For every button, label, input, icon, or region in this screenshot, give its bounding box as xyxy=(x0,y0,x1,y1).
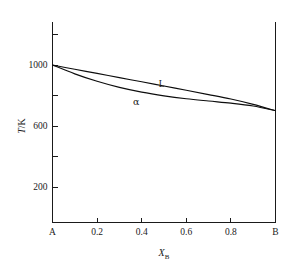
x-tick-label-A: A xyxy=(49,227,56,237)
x-axis-title: XB xyxy=(158,247,170,261)
y-tick-label-1000: 1000 xyxy=(29,60,48,70)
phase-diagram-figure: 2006001000 A0.20.40.60.8B Lα T/K XB xyxy=(0,0,302,266)
y-axis-ticks xyxy=(53,35,58,188)
phase-diagram-svg: 2006001000 A0.20.40.60.8B Lα T/K XB xyxy=(0,0,302,266)
alpha-phase-label: α xyxy=(133,96,140,107)
x-tick-label-0.4: 0.4 xyxy=(136,227,148,237)
x-axis-title-subscript: B xyxy=(165,253,170,261)
x-tick-label-0.6: 0.6 xyxy=(180,227,192,237)
x-tick-label-B: B xyxy=(272,227,278,237)
x-axis-tick-labels: A0.20.40.60.8B xyxy=(49,227,279,237)
y-axis-title-unit: /K xyxy=(16,117,27,128)
liquidus-label: L xyxy=(159,79,165,89)
svg-text:T/K: T/K xyxy=(16,117,27,133)
y-axis-tick-labels: 2006001000 xyxy=(29,60,48,192)
x-axis-ticks xyxy=(97,218,231,223)
y-tick-label-600: 600 xyxy=(33,121,48,131)
x-tick-label-0.2: 0.2 xyxy=(91,227,103,237)
y-axis-title: T/K xyxy=(16,117,27,133)
x-tick-label-0.8: 0.8 xyxy=(225,227,237,237)
y-tick-label-200: 200 xyxy=(33,182,48,192)
